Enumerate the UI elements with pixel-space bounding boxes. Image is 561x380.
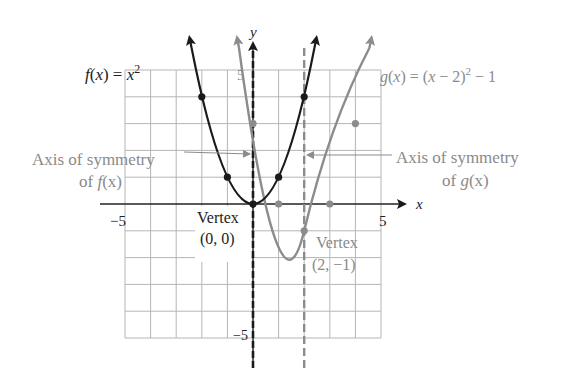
x-axis-label: x (415, 196, 423, 212)
parabola-graph: y x 5 −5 −5 5 f(x) = x2 g(x) = (x − 2)2 … (0, 0, 561, 380)
g-function-label: g(x) = (x − 2)2 − 1 (380, 65, 496, 86)
vertex-g-label-line1: Vertex (316, 234, 358, 251)
axis-f-label-line2: of f(x) (79, 172, 122, 191)
axis-f-label-line1: Axis of symmetry (32, 150, 155, 169)
y-axis-label: y (248, 24, 257, 40)
vertex-f-label-line1: Vertex (197, 209, 239, 226)
y-tick-5: 5 (237, 68, 244, 83)
axis-g-label-line1: Axis of symmetry (396, 148, 519, 167)
axis-g-label-line2: of g(x) (442, 171, 489, 190)
x-tick-neg5: −5 (110, 213, 126, 229)
f-function-label: f(x) = x2 (85, 62, 140, 84)
vertex-g-label-line2: (2, −1) (312, 256, 356, 274)
vertex-f-label-line2: (0, 0) (200, 230, 235, 248)
y-tick-neg5: −5 (233, 328, 248, 343)
x-tick-5: 5 (379, 213, 387, 229)
